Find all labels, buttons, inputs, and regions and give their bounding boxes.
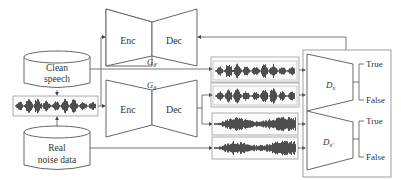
gen-prime-dec-label: Dec xyxy=(166,35,183,46)
discriminator-x-prime: Dx' True False xyxy=(307,111,385,170)
gen-dec-label: Dec xyxy=(166,104,183,115)
dxp-true-label: True xyxy=(366,116,383,126)
dx-true-label: True xyxy=(366,59,383,69)
real-noise-database: Real noise data xyxy=(24,126,90,170)
discriminator-x: Dx True False xyxy=(307,54,385,111)
gen-enc-label: Enc xyxy=(120,104,136,115)
generator-theta: Enc Dec Gθ xyxy=(106,80,197,137)
dx-false-label: False xyxy=(366,95,385,105)
real-noise-label-2: noise data xyxy=(38,155,77,165)
clean-speech-database: Clean speech xyxy=(24,51,90,88)
waveform-stack xyxy=(211,57,299,159)
gen-name: Gθ xyxy=(147,80,156,91)
gen-prime-name: Gθ' xyxy=(147,57,158,68)
generator-theta-prime: Enc Dec Gθ' xyxy=(106,9,197,68)
gen-prime-enc-label: Enc xyxy=(120,35,136,46)
real-noise-label-1: Real xyxy=(48,143,66,153)
clean-speech-label-2: speech xyxy=(44,74,70,84)
noisy-input-waveform xyxy=(13,96,98,116)
diagram-canvas: Clean speech Real noise data Enc Dec Gθ'… xyxy=(0,0,401,180)
dxp-false-label: False xyxy=(366,152,385,162)
clean-speech-label-1: Clean xyxy=(46,63,68,73)
